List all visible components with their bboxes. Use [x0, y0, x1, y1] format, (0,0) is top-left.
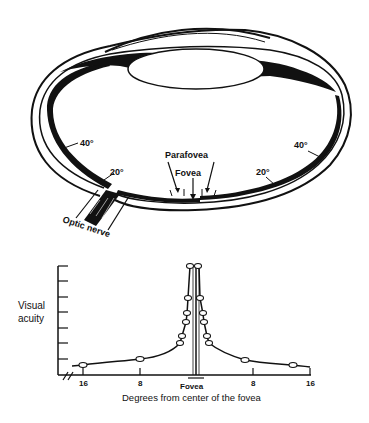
x-tick-label-left-8: 8	[138, 379, 143, 388]
y-ticks	[58, 266, 68, 359]
label-right-40: 40°	[294, 140, 308, 150]
y-axis-label-line2: acuity	[18, 313, 44, 324]
acuity-curve-right	[199, 266, 310, 367]
x-tick-label-right-8: 8	[251, 379, 256, 388]
data-points	[79, 264, 297, 368]
retina-band	[47, 62, 112, 189]
y-axis-label-line1: Visual	[18, 300, 45, 311]
axis-break	[63, 372, 73, 380]
x-center-label-fovea: Fovea	[180, 382, 204, 391]
label-left-20: 20°	[110, 167, 124, 177]
figure-canvas: 40° 20° 40° 20° Parafovea Fovea Optic ne…	[0, 0, 369, 423]
acuity-curve-left	[72, 266, 190, 366]
x-axis-label: Degrees from center of the fovea	[122, 392, 262, 403]
x-tick-label-right-16: 16	[306, 379, 315, 388]
lens	[128, 49, 264, 89]
eye-diagram: 40° 20° 40° 20° Parafovea Fovea Optic ne…	[32, 29, 351, 240]
optic-nerve	[84, 190, 120, 226]
x-tick-label-left-16: 16	[79, 379, 88, 388]
label-fovea: Fovea	[175, 168, 202, 178]
label-parafovea: Parafovea	[165, 150, 209, 160]
label-right-20: 20°	[256, 167, 270, 177]
acuity-chart: Visual acuity 16 8 8 16 Fovea Degrees fr…	[18, 264, 315, 404]
label-left-40: 40°	[80, 138, 94, 148]
